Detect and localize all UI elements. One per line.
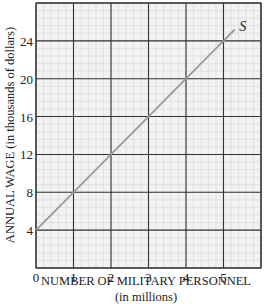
y-tick-label: 8 — [27, 185, 34, 200]
x-tick-label: 0 — [33, 270, 40, 285]
supply-chart: 012345 4812162024 NUMBER OF MILITARY PER… — [0, 0, 264, 307]
series-label-s: S — [239, 19, 246, 34]
plot-area — [36, 3, 261, 268]
y-tick-label: 16 — [20, 110, 34, 125]
x-axis-sublabel: (in millions) — [115, 290, 177, 304]
y-tick-label: 24 — [20, 34, 34, 49]
y-tick-label: 4 — [27, 223, 34, 238]
y-tick-labels: 4812162024 — [20, 34, 34, 238]
y-axis-label: ANNUAL WAGE (in thousands of dollars) — [3, 27, 17, 243]
x-axis-label: NUMBER OF MILITARY PERSONNEL — [41, 274, 251, 288]
y-tick-label: 20 — [20, 72, 33, 87]
y-tick-label: 12 — [20, 147, 33, 162]
